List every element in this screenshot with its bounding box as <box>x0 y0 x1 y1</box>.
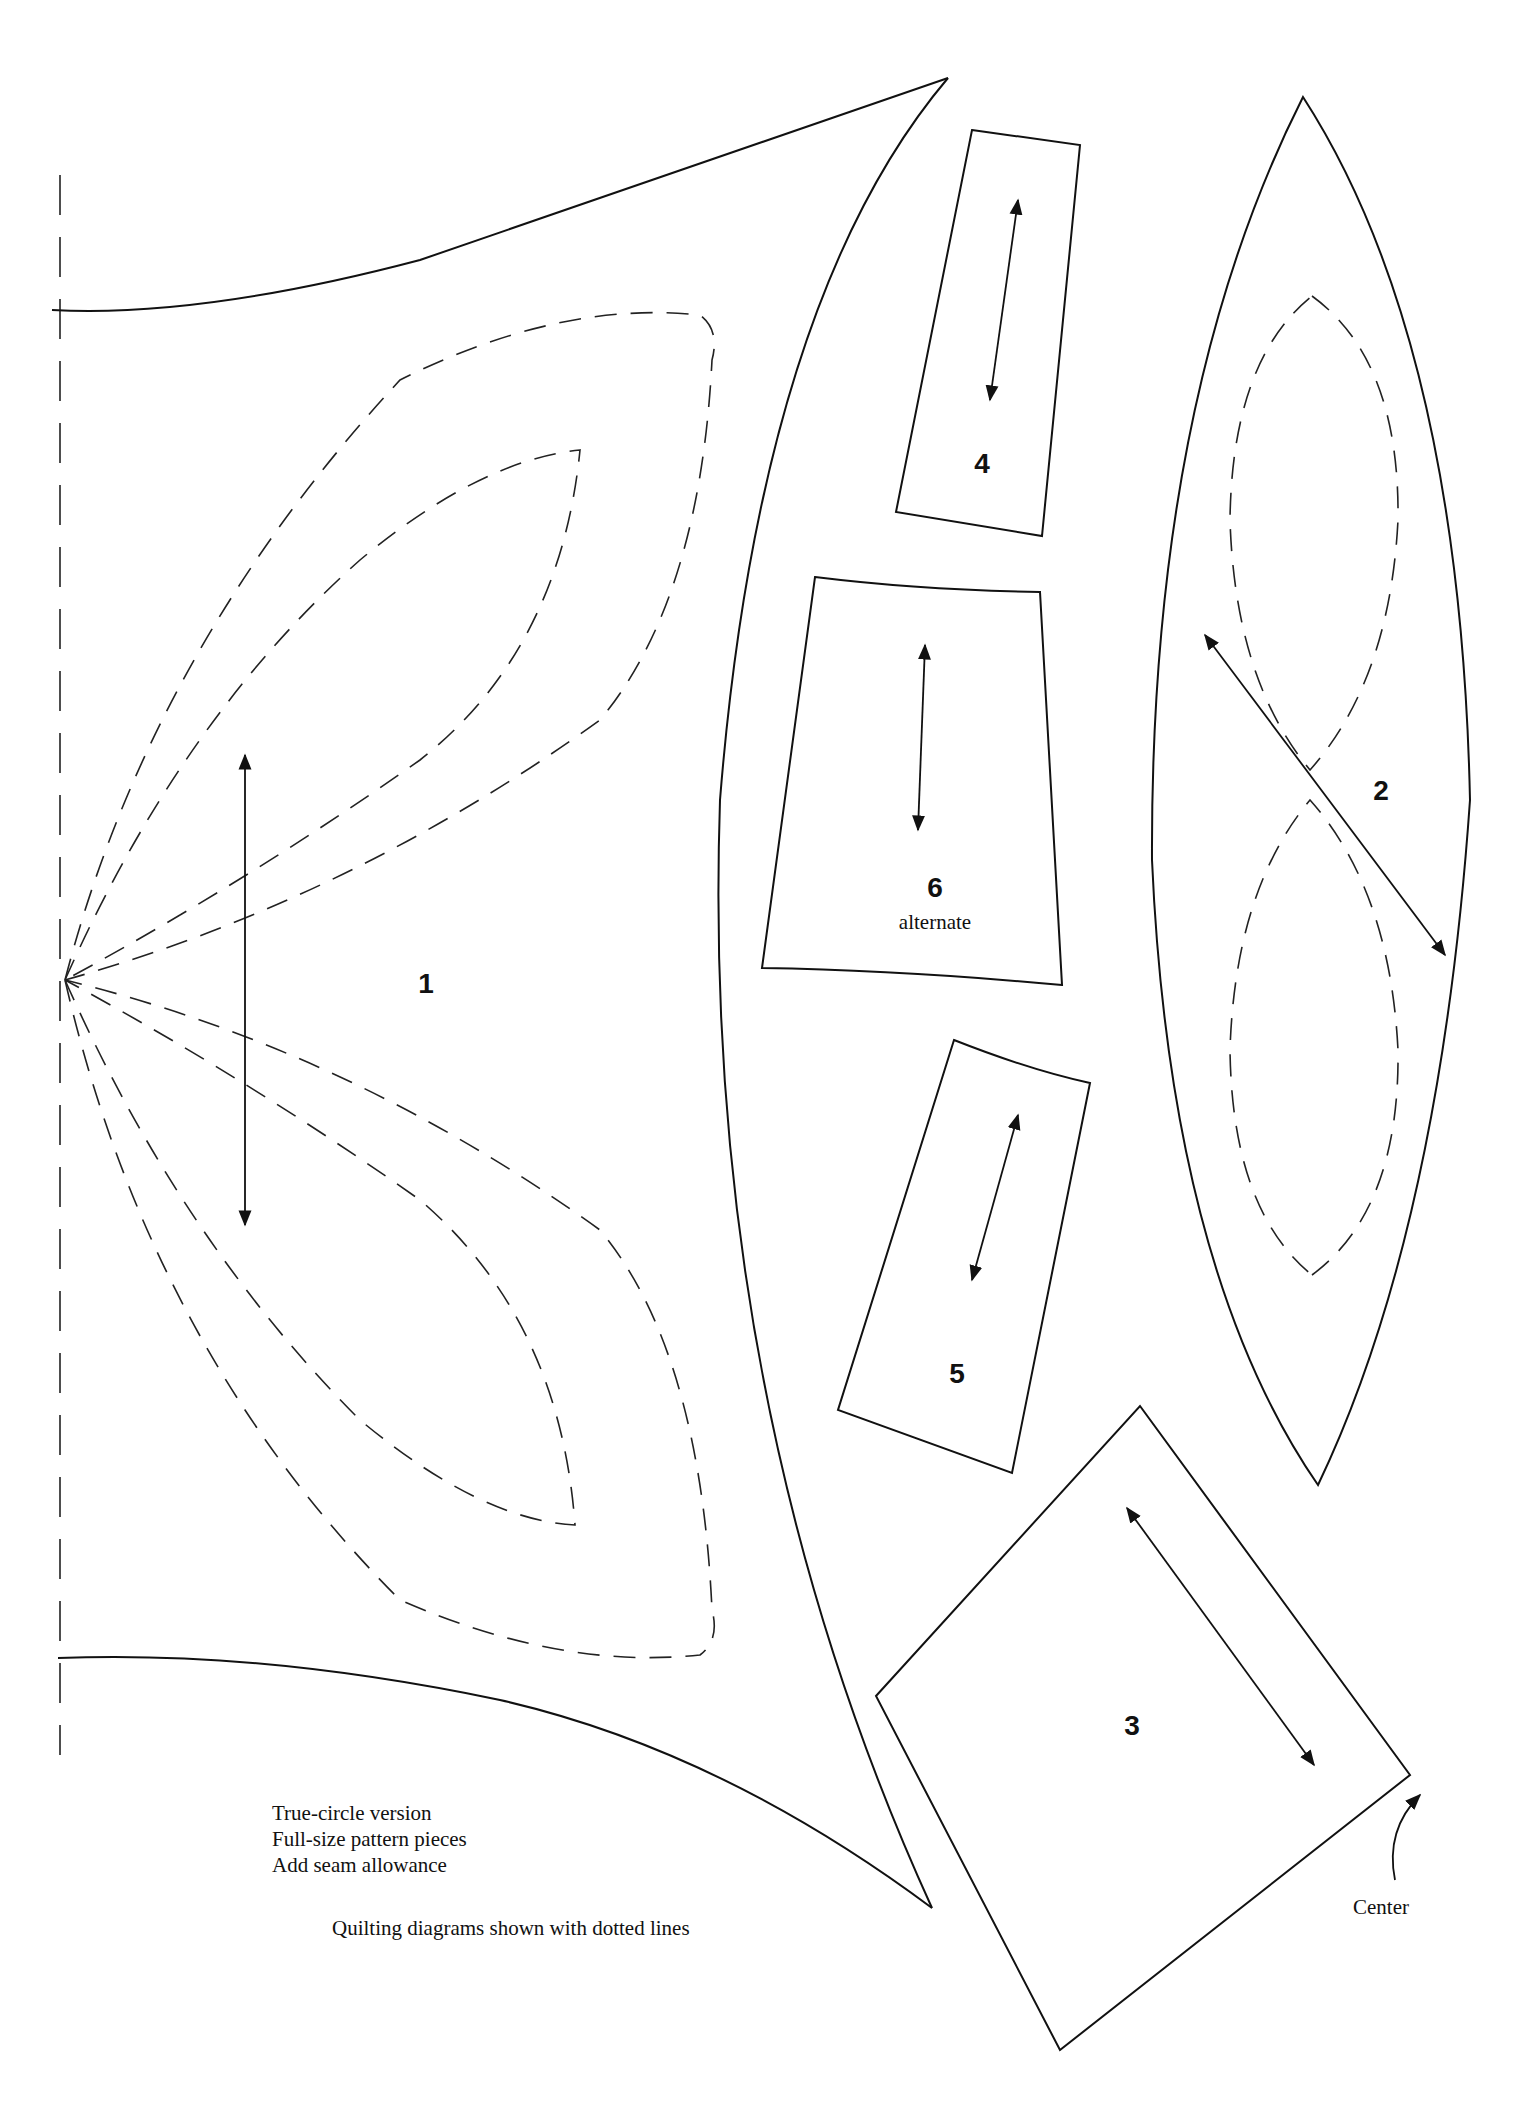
instruction-true-circle: True-circle version <box>272 1800 467 1826</box>
center-label: Center <box>1353 1894 1409 1920</box>
piece-6-alternate-label: alternate <box>899 910 971 934</box>
piece-label-2: 2 <box>1373 775 1389 806</box>
piece-label-3: 3 <box>1124 1710 1140 1741</box>
piece-2 <box>1152 97 1470 1485</box>
pattern-diagram: 1 2 3 4 5 6 alternate <box>0 0 1536 2110</box>
piece-1 <box>52 78 948 1908</box>
piece-label-5: 5 <box>949 1358 965 1389</box>
piece-5 <box>838 1040 1090 1473</box>
piece-label-4: 4 <box>974 448 990 479</box>
instruction-seam-allowance: Add seam allowance <box>272 1852 467 1878</box>
piece-label-6: 6 <box>927 872 943 903</box>
piece-3 <box>876 1406 1420 2050</box>
piece-label-1: 1 <box>418 968 434 999</box>
instructions-block: True-circle version Full-size pattern pi… <box>272 1800 467 1878</box>
quilting-note: Quilting diagrams shown with dotted line… <box>332 1915 690 1941</box>
instruction-full-size: Full-size pattern pieces <box>272 1826 467 1852</box>
